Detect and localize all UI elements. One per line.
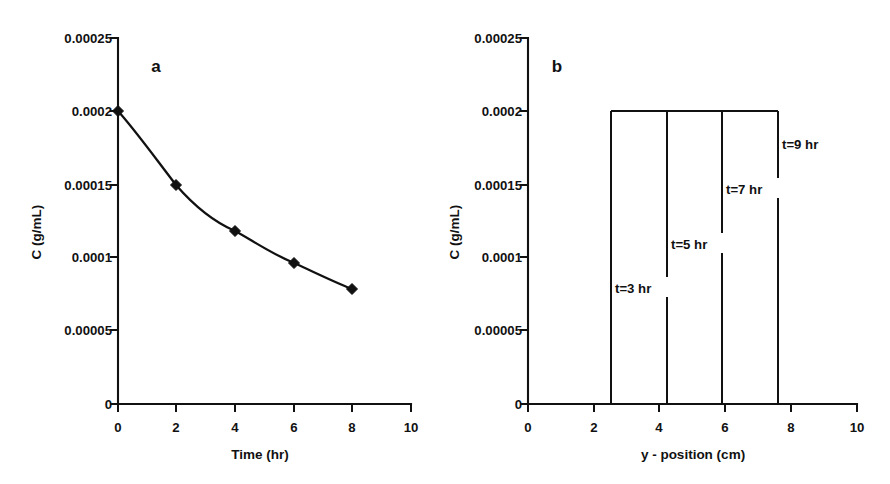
panel-b-xtick-label-10: 10 (850, 420, 865, 435)
panel-a-xtick-label-0: 0 (114, 420, 121, 435)
chart-panel-a: 0.00025 0.0002 0.00015 0.0001 0.00005 0 (0, 0, 445, 484)
panel-a-ytick-label-1: 0.00005 (64, 323, 112, 338)
panel-a-x-axis-title: Time (hr) (231, 447, 289, 462)
panel-b-letter: b (552, 57, 562, 76)
panel-b-curve-label-t9: t=9 hr (782, 137, 818, 152)
panel-a-decay-curve (118, 111, 352, 289)
panel-b-ytick-label-5: 0.00025 (474, 31, 522, 46)
panel-b-curve-label-t7: t=7 hr (726, 182, 762, 197)
panel-b-xtick-label-4: 4 (655, 420, 663, 435)
panel-b-curve-label-t3: t=3 hr (615, 281, 651, 296)
panel-b-curve-label-t5: t=5 hr (671, 237, 707, 252)
panel-a-ytick-label-2: 0.0001 (72, 250, 112, 265)
panel-b-svg: 0.00025 0.0002 0.00015 0.0001 0.00005 0 (445, 0, 890, 484)
panel-a-xtick-label-6: 6 (290, 420, 297, 435)
panel-a-ytick-label-3: 0.00015 (64, 178, 112, 193)
panel-b-y-axis-title: C (g/mL) (447, 205, 462, 260)
panel-a-xtick-label-10: 10 (404, 420, 419, 435)
chart-panel-b: 0.00025 0.0002 0.00015 0.0001 0.00005 0 (445, 0, 890, 484)
panel-a-ytick-label-4: 0.0002 (72, 104, 112, 119)
panel-a-y-axis-title: C (g/mL) (29, 205, 44, 260)
panel-b-x-axis-title: y - position (cm) (641, 447, 745, 462)
panel-b-xtick-label-2: 2 (590, 420, 597, 435)
panel-a-letter: a (151, 57, 161, 76)
panel-a-data-marker-t5 (230, 226, 241, 237)
panel-b-xtick-label-0: 0 (524, 420, 531, 435)
panel-a-xtick-label-4: 4 (231, 420, 239, 435)
figure-container: 0.00025 0.0002 0.00015 0.0001 0.00005 0 (0, 0, 890, 484)
panel-a-data-marker-t7 (289, 258, 300, 269)
panel-a-xtick-label-2: 2 (172, 420, 179, 435)
panel-a-svg: 0.00025 0.0002 0.00015 0.0001 0.00005 0 (0, 0, 445, 484)
panel-a-ytick-label-5: 0.00025 (64, 31, 112, 46)
panel-a-xtick-label-8: 8 (348, 420, 355, 435)
panel-b-xtick-label-8: 8 (787, 420, 794, 435)
panel-b-xtick-label-6: 6 (721, 420, 728, 435)
panel-b-ytick-label-3: 0.00015 (474, 178, 522, 193)
panel-b-ytick-label-4: 0.0002 (482, 104, 522, 119)
panel-b-ytick-label-1: 0.00005 (474, 323, 522, 338)
panel-b-ytick-label-2: 0.0001 (482, 250, 522, 265)
panel-a-data-marker-t9 (347, 284, 358, 295)
